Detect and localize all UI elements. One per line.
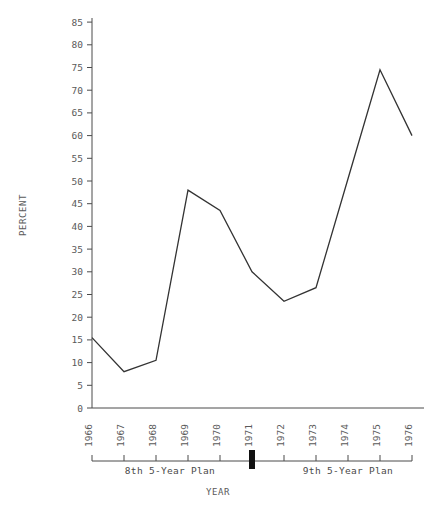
y-tick-label: 75 (72, 62, 83, 73)
plan-axis: 8th 5-Year Plan 9th 5-Year Plan (92, 450, 412, 476)
x-tick-label: 1970 (211, 424, 222, 447)
y-tick-label: 70 (72, 85, 84, 96)
x-tick-label: 1967 (115, 424, 126, 447)
x-axis-title: YEAR (206, 487, 230, 497)
y-axis-title: PERCENT (18, 194, 28, 236)
x-tick-label: 1975 (371, 424, 382, 447)
x-tick-label: 1971 (243, 424, 254, 447)
y-tick-label: 50 (72, 176, 84, 187)
plan-divider-marker (249, 450, 255, 469)
y-tick-label: 30 (72, 266, 84, 277)
plan-label-right: 9th 5-Year Plan (303, 465, 393, 476)
y-tick-label: 20 (72, 312, 84, 323)
line-chart-svg: PERCENT 0 5 10 15 20 25 30 35 40 4 (0, 0, 440, 514)
chart-figure: PERCENT 0 5 10 15 20 25 30 35 40 4 (0, 0, 440, 514)
x-tick-label: 1972 (275, 424, 286, 447)
y-tick-label: 35 (72, 244, 83, 255)
x-tick-label: 1974 (339, 424, 350, 447)
x-tick-label: 1968 (147, 424, 158, 447)
y-tick-label: 0 (77, 403, 83, 414)
y-axis-ticks: 0 5 10 15 20 25 30 35 40 45 50 55 (72, 17, 92, 414)
plan-label-left: 8th 5-Year Plan (125, 465, 215, 476)
data-series-line (92, 70, 412, 372)
y-tick-label: 15 (72, 334, 83, 345)
y-tick-label: 55 (72, 153, 83, 164)
x-tick-label: 1966 (83, 424, 94, 447)
y-tick-label: 60 (72, 130, 84, 141)
y-tick-label: 5 (77, 380, 83, 391)
y-tick-label: 45 (72, 198, 83, 209)
x-axis-tick-labels: 1966 1967 1968 1969 1970 1971 1972 1973 … (83, 424, 414, 447)
y-tick-label: 80 (72, 39, 84, 50)
y-tick-label: 85 (72, 17, 83, 28)
x-tick-label: 1973 (307, 424, 318, 447)
y-axis-title-text: PERCENT (18, 194, 28, 236)
y-tick-label: 40 (72, 221, 84, 232)
y-tick-label: 65 (72, 107, 83, 118)
y-tick-label: 25 (72, 289, 83, 300)
x-tick-label: 1976 (403, 424, 414, 447)
y-tick-label: 10 (72, 357, 84, 368)
x-tick-label: 1969 (179, 424, 190, 447)
